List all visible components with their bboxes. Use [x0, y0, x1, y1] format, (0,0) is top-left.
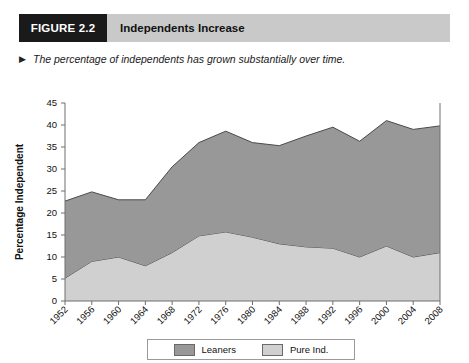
svg-text:1980: 1980: [235, 304, 258, 327]
svg-text:1952: 1952: [47, 304, 70, 327]
svg-text:Percentage Independent: Percentage Independent: [14, 143, 25, 260]
legend-label-pure-ind: Pure Ind.: [290, 344, 329, 355]
svg-text:35: 35: [46, 141, 57, 152]
svg-text:30: 30: [46, 163, 57, 174]
svg-text:1964: 1964: [128, 304, 151, 327]
legend-swatch-leaners: [174, 344, 195, 356]
svg-text:1988: 1988: [288, 304, 311, 327]
svg-text:1984: 1984: [261, 304, 284, 327]
legend-item-leaners: Leaners: [174, 344, 236, 356]
svg-text:40: 40: [46, 119, 57, 130]
svg-text:2000: 2000: [369, 304, 392, 327]
legend-label-leaners: Leaners: [202, 344, 236, 355]
svg-text:1972: 1972: [181, 304, 204, 327]
figure-caption-text: The percentage of independents has grown…: [33, 52, 345, 67]
y-axis-title: Percentage Independent: [14, 143, 25, 260]
svg-text:10: 10: [46, 251, 57, 262]
x-axis-tick-labels: 1952195619601964196819721976198019841988…: [47, 304, 445, 327]
figure-caption: ▶ The percentage of independents has gro…: [19, 52, 454, 67]
triangle-bullet-icon: ▶: [19, 52, 26, 67]
figure-number-label: FIGURE 2.2: [19, 14, 107, 42]
svg-text:1960: 1960: [101, 304, 124, 327]
svg-text:1956: 1956: [74, 304, 97, 327]
svg-text:1976: 1976: [208, 304, 231, 327]
legend-swatch-pure-ind: [262, 344, 283, 356]
y-axis-tick-labels: 051015202530354045: [46, 97, 57, 306]
svg-text:25: 25: [46, 185, 57, 196]
svg-text:2004: 2004: [395, 304, 418, 327]
svg-text:1968: 1968: [154, 304, 177, 327]
svg-text:1996: 1996: [342, 304, 365, 327]
stacked-area-chart: 051015202530354045 195219561960196419681…: [0, 90, 469, 338]
chart-container: 051015202530354045 195219561960196419681…: [0, 90, 469, 338]
svg-text:0: 0: [52, 295, 57, 306]
chart-legend: Leaners Pure Ind.: [147, 339, 355, 360]
figure-header: FIGURE 2.2 Independents Increase: [19, 14, 450, 42]
figure-title: Independents Increase: [107, 14, 450, 42]
svg-text:1992: 1992: [315, 304, 338, 327]
svg-text:5: 5: [52, 273, 57, 284]
svg-text:20: 20: [46, 207, 57, 218]
svg-text:2008: 2008: [422, 304, 445, 327]
legend-item-pure-ind: Pure Ind.: [262, 344, 329, 356]
svg-text:45: 45: [46, 97, 57, 108]
svg-text:15: 15: [46, 229, 57, 240]
